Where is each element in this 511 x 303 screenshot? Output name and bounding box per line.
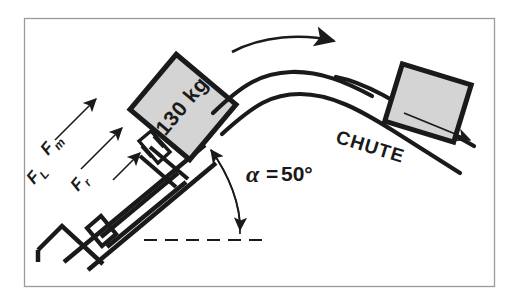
force-label-fr-group: F r xyxy=(67,169,96,197)
force-vectors: F m F L F r xyxy=(23,99,140,197)
force-label-fm-group: F m xyxy=(37,130,69,162)
force-arrow-fr xyxy=(113,153,140,180)
force-arrow-fm xyxy=(55,99,96,140)
force-arrow-fl xyxy=(81,128,122,169)
rail-lower-2 xyxy=(88,163,216,270)
mechanics-diagram: 130 kg CHUTE F m F L xyxy=(0,0,511,303)
angle-symbol: α xyxy=(246,161,260,187)
motion-arrow xyxy=(232,37,334,52)
force-label-fl-group: F L xyxy=(23,161,52,190)
crate-right xyxy=(385,64,471,142)
angle-arc-lower xyxy=(211,150,240,230)
rail-lower xyxy=(64,145,205,262)
figure-container: 130 kg CHUTE F m F L xyxy=(0,0,511,303)
angle-annotation: α = 50° xyxy=(211,150,313,234)
angle-value: 50° xyxy=(281,162,313,185)
crate-right-body xyxy=(385,64,471,142)
angle-equals: = xyxy=(266,162,278,185)
